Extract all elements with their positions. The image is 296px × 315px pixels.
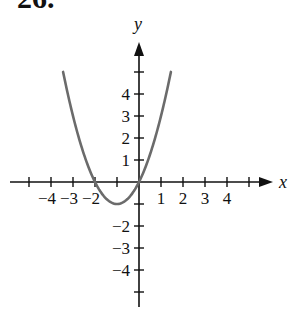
y-tick-label: −4 — [112, 261, 131, 280]
coordinate-plane: xy−4−3−212344321−2−3−4 — [0, 0, 296, 315]
y-tick-label: 1 — [122, 151, 131, 170]
y-tick-label: −2 — [112, 217, 130, 236]
y-axis-arrow-icon — [134, 42, 144, 56]
y-tick-label: 2 — [122, 129, 131, 148]
x-tick-label: −2 — [82, 189, 100, 208]
x-axis-arrow-icon — [259, 177, 273, 187]
graph-figure: 26. xy−4−3−212344321−2−3−4 — [0, 0, 296, 315]
tick-labels: xy−4−3−212344321−2−3−4 — [38, 14, 287, 280]
y-axis-label: y — [132, 14, 142, 34]
x-axis-label: x — [278, 172, 287, 192]
y-tick-label: 3 — [122, 107, 131, 126]
x-tick-label: 2 — [179, 189, 188, 208]
x-tick-label: −3 — [60, 189, 78, 208]
y-tick-label: 4 — [122, 85, 131, 104]
x-tick-label: 1 — [157, 189, 166, 208]
x-tick-label: −4 — [38, 189, 57, 208]
y-tick-label: −3 — [112, 239, 130, 258]
x-tick-label: 4 — [223, 189, 232, 208]
x-tick-label: 3 — [201, 189, 210, 208]
